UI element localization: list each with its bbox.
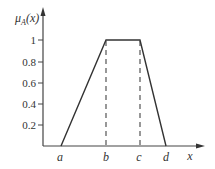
x-tick-label-b: b — [103, 150, 109, 164]
y-tick-label: 0.2 — [22, 119, 36, 131]
x-tick-label-a: a — [57, 150, 63, 164]
y-ticks — [38, 40, 43, 125]
y-tick-label: 0.6 — [22, 77, 36, 89]
y-tick-label: 1 — [31, 34, 37, 46]
y-axis-label: μA(x) — [14, 11, 39, 27]
x-tick-label-d: d — [163, 150, 170, 164]
y-axis-arrow-icon — [41, 7, 46, 16]
x-axis-arrow-icon — [196, 144, 205, 149]
x-tick-label-c: c — [136, 150, 142, 164]
membership-function-line — [61, 40, 166, 146]
y-tick-label: 0.4 — [22, 98, 36, 110]
x-axis-label: x — [186, 149, 193, 163]
trapezoid-membership-chart: 1 0.8 0.6 0.4 0.2 μA(x) a b c d x — [0, 0, 215, 169]
y-tick-label: 0.8 — [22, 56, 36, 68]
